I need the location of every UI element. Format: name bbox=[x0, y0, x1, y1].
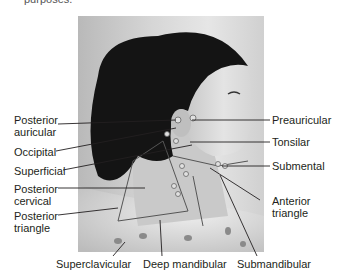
label-line-1: Posterior bbox=[14, 114, 58, 126]
label-superficial: Superficial bbox=[14, 165, 65, 177]
label-line-2: triangle bbox=[14, 222, 58, 234]
label-deep-mandibular: Deep mandibular bbox=[143, 258, 227, 270]
label-line-1: Anterior bbox=[272, 195, 311, 207]
label-line-1: Posterior bbox=[14, 183, 58, 195]
photo-illustration bbox=[78, 16, 264, 252]
label-posterior-cervical: Posterior cervical bbox=[14, 183, 58, 207]
label-tonsilar: Tonsilar bbox=[272, 136, 310, 148]
label-line-1: Posterior bbox=[14, 210, 58, 222]
label-line-2: triangle bbox=[272, 207, 311, 219]
label-preauricular: Preauricular bbox=[272, 114, 331, 126]
label-line-2: cervical bbox=[14, 195, 58, 207]
label-submental: Submental bbox=[272, 160, 325, 172]
profile-photo bbox=[78, 16, 264, 252]
label-occipital: Occipital bbox=[14, 146, 56, 158]
label-line-2: auricular bbox=[14, 126, 58, 138]
label-superclavicular: Superclavicular bbox=[56, 258, 131, 270]
label-posterior-triangle: Posterior triangle bbox=[14, 210, 58, 234]
label-posterior-auricular: Posterior auricular bbox=[14, 114, 58, 138]
label-anterior-triangle: Anterior triangle bbox=[272, 195, 311, 219]
cropped-caption-text: purposes. bbox=[24, 0, 72, 5]
label-submandibular: Submandibular bbox=[237, 258, 311, 270]
